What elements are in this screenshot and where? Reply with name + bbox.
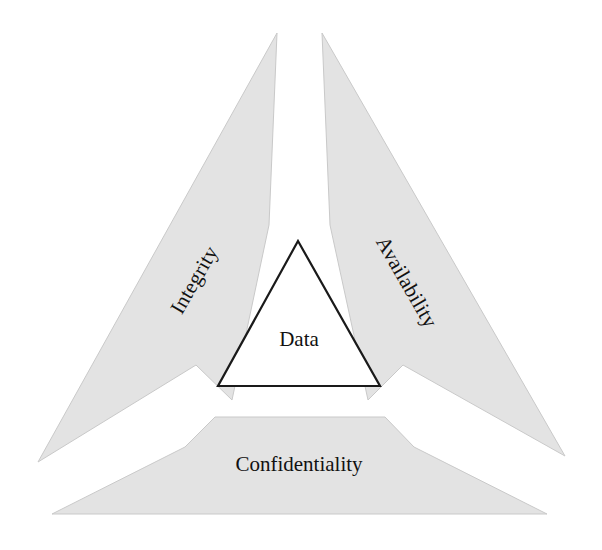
triad-canvas: Integrity Availability Confidentiality D… (0, 0, 602, 550)
wedge-availability-shape (322, 33, 565, 456)
cia-triad-diagram: Integrity Availability Confidentiality D… (0, 0, 602, 550)
wedge-availability[interactable]: Availability (322, 33, 565, 456)
wedge-confidentiality[interactable]: Confidentiality (52, 417, 547, 514)
wedge-integrity[interactable]: Integrity (38, 33, 277, 462)
wedge-confidentiality-label: Confidentiality (235, 452, 363, 476)
wedge-integrity-shape (38, 33, 277, 462)
core-triangle-label: Data (279, 327, 319, 351)
